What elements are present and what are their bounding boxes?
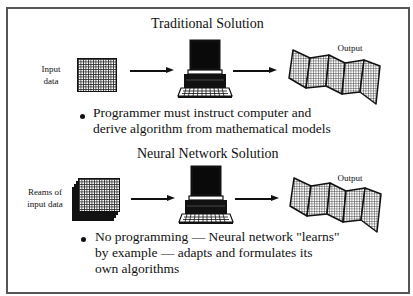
arrow-right-icon — [235, 195, 280, 203]
arrow-right-icon — [131, 195, 176, 203]
bullet-line: by example — adapts and formulates its — [95, 245, 340, 261]
bullet-icon — [81, 237, 86, 242]
bullet-line: derive algorithm from mathematical model… — [93, 121, 331, 137]
grid-data-page-icon — [77, 58, 117, 92]
section-title-traditional: Traditional Solution — [151, 16, 264, 32]
input-label-line-2: input data — [20, 198, 70, 210]
input-label-line-1: Input — [36, 63, 66, 75]
arrow-right-icon — [233, 67, 278, 75]
section-title-neural-network: Neural Network Solution — [137, 146, 279, 162]
bullet-text-neural-network: No programming — Neural network "learns"… — [95, 229, 340, 277]
input-label-line-2: data — [36, 75, 66, 87]
bullet-line: own algorithms — [95, 261, 340, 277]
bullet-icon — [80, 114, 85, 119]
bullet-text-traditional: Programmer must instruct computer and de… — [93, 105, 331, 137]
fanfold-printout-icon — [288, 48, 388, 106]
stacked-data-pages-icon — [72, 177, 126, 223]
fanfold-printout-icon — [289, 176, 389, 234]
computer-icon — [176, 164, 236, 226]
bullet-line: No programming — Neural network "learns" — [95, 229, 340, 245]
bullet-line: Programmer must instruct computer and — [93, 105, 331, 121]
arrow-right-icon — [130, 67, 175, 75]
input-label-neural-network: Reams of input data — [20, 186, 70, 210]
computer-icon — [175, 38, 235, 100]
input-label-line-1: Reams of — [20, 186, 70, 198]
input-label-traditional: Input data — [36, 63, 66, 87]
